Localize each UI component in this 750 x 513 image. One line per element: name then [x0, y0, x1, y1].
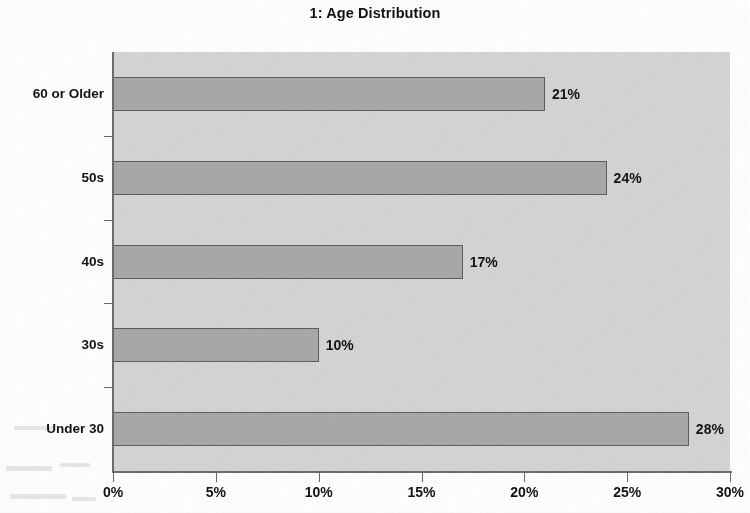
bar-50s	[113, 161, 607, 195]
y-axis-category-label: 30s	[0, 337, 104, 353]
bar-value-label: 28%	[696, 421, 724, 437]
bar-30s	[113, 328, 319, 362]
x-axis-tick	[113, 473, 114, 482]
x-axis-tick-label: 15%	[387, 484, 457, 500]
x-axis-tick	[730, 473, 731, 482]
y-axis-tick	[104, 136, 113, 137]
chart-title: 1: Age Distribution	[0, 5, 750, 21]
y-axis-category-label: Under 30	[0, 421, 104, 437]
y-axis-category-label: 40s	[0, 254, 104, 270]
bar-under-30	[113, 412, 689, 446]
y-axis-line	[112, 52, 114, 473]
y-axis-category-label: 60 or Older	[0, 86, 104, 102]
bar-60-or-older	[113, 77, 545, 111]
scan-artifact	[6, 466, 52, 471]
x-axis-tick-label: 0%	[78, 484, 148, 500]
scan-artifact	[10, 494, 66, 499]
bar-40s	[113, 245, 463, 279]
x-axis-tick-label: 5%	[181, 484, 251, 500]
x-axis-tick	[319, 473, 320, 482]
y-axis-category-label: 50s	[0, 170, 104, 186]
bar-value-label: 10%	[326, 337, 354, 353]
x-axis-tick	[524, 473, 525, 482]
bar-value-label: 24%	[614, 170, 642, 186]
y-axis-tick	[104, 303, 113, 304]
x-axis-tick	[627, 473, 628, 482]
scan-artifact	[60, 463, 90, 467]
y-axis-tick	[104, 387, 113, 388]
x-axis-tick-label: 10%	[284, 484, 354, 500]
bar-value-label: 17%	[470, 254, 498, 270]
x-axis-tick-label: 25%	[592, 484, 662, 500]
bar-value-label: 21%	[552, 86, 580, 102]
x-axis-tick-label: 30%	[695, 484, 750, 500]
x-axis-tick	[216, 473, 217, 482]
x-axis-tick-label: 20%	[489, 484, 559, 500]
x-axis-tick	[422, 473, 423, 482]
y-axis-tick	[104, 220, 113, 221]
